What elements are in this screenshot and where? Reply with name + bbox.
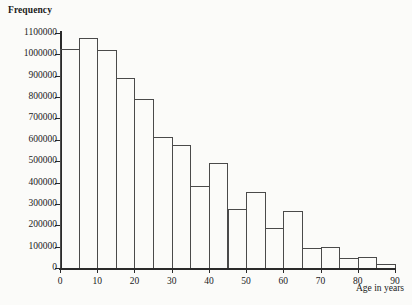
x-tick-label: 50 (241, 276, 251, 286)
histogram-bar (79, 38, 99, 268)
y-tick-label: 700000 (29, 112, 58, 122)
y-tick-label: 1000000 (24, 48, 57, 58)
y-tick-label: 100000 (29, 241, 58, 251)
x-tick-label: 0 (58, 276, 63, 286)
histogram-bar (339, 258, 359, 268)
histogram-bar (246, 192, 266, 268)
histogram-bar (116, 78, 136, 268)
x-axis-line (59, 268, 396, 270)
histogram-bar (265, 228, 285, 268)
y-tick-label: 600000 (29, 134, 58, 144)
y-axis-title: Frequency (8, 5, 52, 15)
y-tick-label: 800000 (29, 91, 58, 101)
histogram-bar (190, 186, 210, 268)
y-tick-label: 0 (52, 262, 57, 272)
x-tick-mark (283, 268, 284, 273)
histogram-bar (153, 137, 173, 268)
x-tick-mark (172, 268, 173, 273)
x-tick-mark (395, 268, 396, 273)
histogram-bar (358, 257, 378, 268)
x-tick-label: 40 (204, 276, 214, 286)
y-tick-label: 300000 (29, 198, 58, 208)
y-tick-label: 1100000 (24, 27, 57, 37)
histogram-bar (228, 209, 248, 268)
x-tick-label: 30 (167, 276, 177, 286)
x-tick-mark (60, 268, 61, 273)
histogram-bar (302, 248, 322, 268)
x-tick-mark (134, 268, 135, 273)
histogram-bar (172, 145, 192, 268)
histogram-bar (97, 50, 117, 268)
x-tick-mark (209, 268, 210, 273)
histogram-bar (60, 49, 80, 268)
y-tick-label: 200000 (29, 219, 58, 229)
plot-area: 0100000200000300000400000500000600000700… (60, 33, 395, 268)
x-tick-mark (321, 268, 322, 273)
histogram-bar (321, 247, 341, 268)
histogram-figure: Frequency 010000020000030000040000050000… (0, 0, 412, 305)
x-tick-label: 10 (92, 276, 102, 286)
y-tick-label: 900000 (29, 70, 58, 80)
x-tick-label: 20 (130, 276, 140, 286)
y-tick-label: 400000 (29, 177, 58, 187)
x-tick-label: 60 (279, 276, 289, 286)
x-tick-mark (97, 268, 98, 273)
x-tick-label: 70 (316, 276, 326, 286)
histogram-bar (376, 264, 396, 268)
histogram-bar (209, 163, 229, 268)
histogram-bar (283, 211, 303, 268)
y-tick-label: 500000 (29, 155, 58, 165)
x-tick-mark (246, 268, 247, 273)
x-tick-mark (358, 268, 359, 273)
x-axis-title: Age in years (356, 283, 404, 293)
histogram-bar (134, 99, 154, 268)
